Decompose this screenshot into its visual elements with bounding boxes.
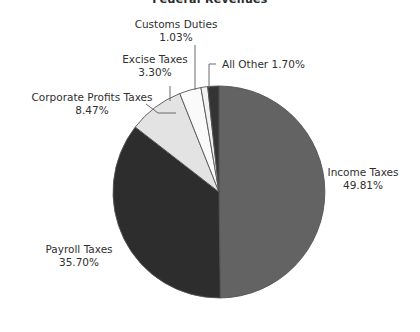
slice-label-all-other: All Other 1.70% (222, 58, 305, 71)
slice-label-income-taxes: Income Taxes 49.81% (316, 166, 410, 191)
pie-slice-income-taxes[interactable] (219, 86, 325, 298)
slice-label-customs-duties-value: 1.03% (118, 31, 234, 44)
slice-label-excise-taxes-value: 3.30% (108, 66, 202, 79)
slice-label-corporate-profits-taxes-value: 8.47% (8, 104, 176, 117)
slice-label-income-taxes-value: 49.81% (316, 179, 410, 192)
slice-label-excise-taxes: Excise Taxes 3.30% (108, 53, 202, 78)
slice-label-payroll-taxes-value: 35.70% (28, 256, 130, 269)
pie-slices (113, 86, 325, 298)
slice-label-corporate-profits-taxes: Corporate Profits Taxes 8.47% (8, 91, 176, 116)
slice-label-customs-duties-name: Customs Duties (118, 18, 234, 31)
slice-label-corporate-profits-taxes-name: Corporate Profits Taxes (8, 91, 176, 104)
slice-label-excise-taxes-name: Excise Taxes (108, 53, 202, 66)
slice-label-all-other-name: All Other 1.70% (222, 58, 305, 71)
leader-line-all-other (209, 64, 216, 88)
slice-label-payroll-taxes-name: Payroll Taxes (28, 243, 130, 256)
pie-chart: Federal Revenues Customs Duties 1.03% Ex… (0, 0, 420, 332)
slice-label-customs-duties: Customs Duties 1.03% (118, 18, 234, 43)
slice-label-payroll-taxes: Payroll Taxes 35.70% (28, 243, 130, 268)
slice-label-income-taxes-name: Income Taxes (316, 166, 410, 179)
